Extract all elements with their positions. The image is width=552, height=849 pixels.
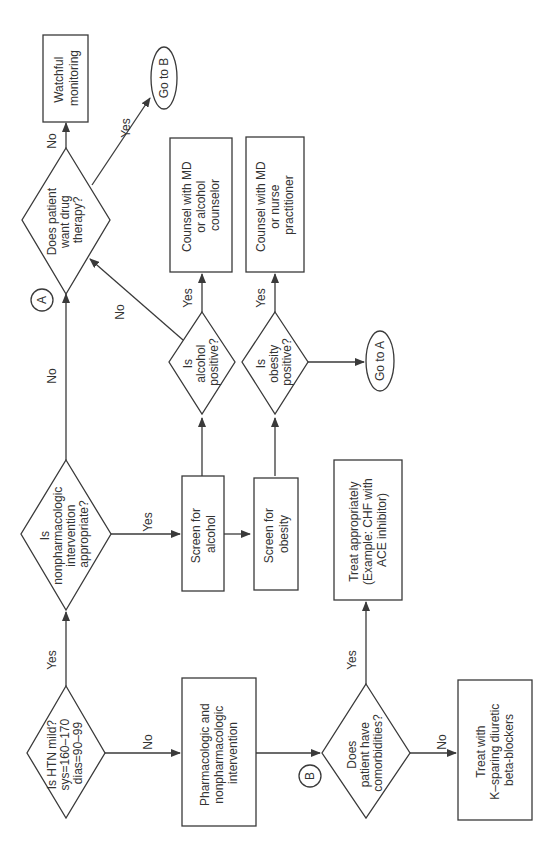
edge-label-alcohol-yes: Yes [181,288,195,308]
edge-label-nonpharm-yes: Yes [141,512,155,532]
decision-htn-mild: Is HTN mild? sys=160–170 dias=90–99 [27,686,105,818]
connector-a: A [31,289,53,311]
process-screen-obesity: Screen for obesity [254,478,298,590]
decision-alcohol-positive: Is alcohol positive? [169,312,235,414]
terminal-go-to-a: Go to A [366,331,394,391]
edge-label-obesity-yes: Yes [254,288,268,308]
edge-label-drug-no: No [45,133,59,149]
connector-b: B [299,765,321,787]
process-counsel-obesity: Counsel with MD or nurse practitioner [246,137,304,272]
decision-obesity-positive: Is obesity positive? [242,312,308,414]
decision-nonpharm-appropriate: Is nonpharmacologic intervention appropr… [21,460,111,610]
svg-text:A: A [35,296,49,304]
edge-label-htn-yes: Yes [45,650,59,670]
hypertension-flowchart: Yes No Yes No Yes No Yes No Yes No Yes I… [0,0,552,849]
decision-comorbidities: Does patient have comorbidities? [322,684,410,818]
edge-label-comorb-yes: Yes [345,650,359,670]
edge-label-nonpharm-no: No [45,368,59,384]
edge-drug-yes [92,98,150,185]
edge-label-htn-no: No [141,734,155,750]
process-pharm-nonpharm: Pharmacologic and nonpharmacologic inter… [182,678,256,826]
edge-label-comorb-no: No [435,734,449,750]
svg-text:Watchful monitoring: Watchful monitoring [52,50,81,106]
process-treat-k-sparing: Treat with K–sparing diuretic beta-block… [458,680,532,820]
process-treat-appropriately: Treat appropriately (Example: CHF with A… [334,460,402,600]
svg-text:Go to B: Go to B [157,58,171,99]
svg-text:Go to A: Go to A [373,341,387,381]
edge-label-drug-yes: Yes [119,118,133,138]
svg-text:B: B [303,772,317,780]
terminal-go-to-b: Go to B [151,47,177,109]
process-watchful-monitoring: Watchful monitoring [43,35,88,122]
edge-alcohol-no [90,259,183,340]
process-counsel-alcohol: Counsel with MD or alcohol counselor [170,138,232,272]
edge-label-alcohol-no: No [113,304,127,320]
decision-drug-therapy: Does patient want drug therapy? [22,148,110,294]
svg-text:Is HTN mild? sys=160–170: Is HTN mild? sys=160–170 dias=90–99 [45,715,85,790]
process-screen-alcohol: Screen for alcohol [182,476,224,591]
